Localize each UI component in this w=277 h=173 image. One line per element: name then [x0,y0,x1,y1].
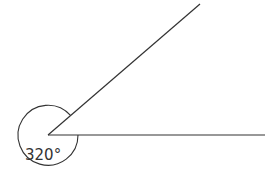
upper-ray [48,4,200,135]
angle-label: 320° [25,146,61,164]
angle-diagram: 320° [0,0,277,173]
